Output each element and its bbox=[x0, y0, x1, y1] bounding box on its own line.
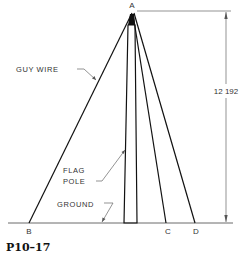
flag-pole-label-line2: POLE bbox=[63, 177, 85, 186]
arrow-up-icon bbox=[224, 12, 227, 19]
flag-pole-label-line1: FLAG bbox=[63, 166, 85, 175]
point-D-label: D bbox=[193, 227, 199, 236]
guy-wire-AB bbox=[29, 13, 132, 223]
ground-label: GROUND bbox=[57, 200, 94, 209]
flag-pole-leader bbox=[96, 150, 125, 181]
dimension-height-label: 12 192 bbox=[214, 87, 239, 96]
arrow-icon bbox=[102, 218, 106, 223]
point-B-label: B bbox=[26, 227, 31, 236]
guy-wire-AC bbox=[133, 14, 166, 223]
point-A-label: A bbox=[129, 1, 135, 10]
flag-pole bbox=[124, 25, 137, 223]
figure-number: P10–17 bbox=[6, 241, 50, 254]
arrow-down-icon bbox=[224, 215, 227, 222]
guy-wire-label: GUY WIRE bbox=[16, 65, 59, 74]
arrow-icon bbox=[122, 150, 126, 154]
guy-wire-AD bbox=[134, 13, 195, 223]
flagpole-diagram: 12 192 GUY WIRE FLAG POLE GROUND A B C D… bbox=[0, 0, 241, 254]
point-C-label: C bbox=[165, 227, 171, 236]
